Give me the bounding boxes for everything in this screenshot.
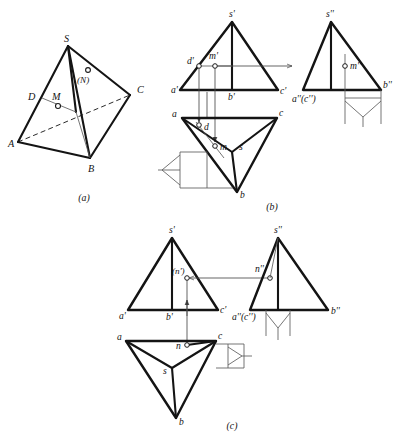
panel-b-top-view: a c d m s b [172, 107, 284, 200]
panel-c-projections: s' (n') a' b' c' a c n s b [117, 224, 341, 432]
c-top-edge-s-b [172, 368, 176, 418]
label-A: A [7, 138, 15, 149]
label-s-b: s [239, 141, 243, 152]
caption-panel-c: (c) [227, 420, 238, 432]
label-n-c: n [176, 340, 181, 351]
label-M: M [51, 91, 61, 102]
label-a-c: a [117, 331, 122, 342]
figure-root: S A B C D M (N) (a) s' d' m' [0, 0, 406, 440]
point-m-marker [213, 144, 218, 149]
point-M-marker [56, 104, 61, 109]
caption-panel-a: (a) [78, 192, 89, 204]
label-s-c: s [163, 365, 167, 376]
front-triangle-outline [180, 22, 278, 90]
side-triangle-outline [303, 22, 381, 90]
c-aux-chevron [228, 347, 242, 365]
edge-SB [68, 46, 90, 158]
label-s-prime-c: s' [169, 224, 176, 235]
c-top-edge-a-s [126, 341, 172, 368]
side-aux-chevron [345, 101, 381, 117]
point-d-marker [197, 123, 202, 128]
label-b-double-prime-c: b'' [331, 305, 341, 316]
panel-a-pictorial: S A B C D M (N) (a) [7, 33, 144, 204]
descriptive-geometry-figure: S A B C D M (N) (a) s' d' m' [0, 0, 406, 440]
edge-SC [68, 46, 130, 95]
label-N: (N) [77, 75, 89, 85]
label-m-b: m [220, 141, 227, 152]
label-b-b: b [240, 189, 245, 200]
panel-c-top-view: a c n s b [117, 330, 252, 427]
edge-BC [90, 95, 130, 158]
label-S: S [64, 33, 69, 44]
point-m-double-prime-marker [343, 64, 348, 69]
label-a-prime-c: a' [119, 310, 127, 321]
label-c-prime-b: c' [280, 85, 287, 96]
label-n-prime-c: (n') [172, 266, 185, 276]
panel-b-projections: s' d' m' a' b' c' a c d m s b [158, 8, 393, 213]
label-n-double-prime-c: n'' [255, 263, 265, 274]
label-d-prime-b: d' [187, 55, 195, 66]
label-s-prime-b: s' [229, 8, 236, 19]
c-side-triangle-outline [250, 238, 328, 310]
point-n-prime-marker [185, 276, 190, 281]
point-N-marker [86, 68, 91, 73]
label-s-double-prime-c: s'' [274, 224, 283, 235]
label-ac-double-prime-c: a''(c'') [232, 311, 256, 323]
point-n-marker [185, 343, 190, 348]
label-c-prime-c: c' [220, 304, 227, 315]
panel-c-side-view: s'' n'' a''(c'') b'' [232, 224, 341, 340]
label-B: B [88, 163, 94, 174]
panel-b-side-view: s'' m'' a''(c'') b'' [292, 8, 393, 127]
label-C: C [137, 84, 144, 95]
point-m-prime-marker [213, 64, 218, 69]
panel-c-front-view: s' (n') a' b' c' [119, 224, 270, 344]
caption-panel-b: (b) [266, 201, 277, 213]
edge-SA [18, 46, 68, 142]
label-m-double-prime-b: m'' [350, 60, 362, 71]
label-a-prime-b: a' [171, 84, 179, 95]
label-m-prime-b: m' [209, 50, 219, 61]
label-a-b: a [172, 108, 177, 119]
c-top-triangle-outline [126, 341, 216, 418]
label-d-b: d [204, 121, 209, 132]
label-s-double-prime-b: s'' [326, 8, 335, 19]
label-ac-double-prime-b: a''(c'') [292, 93, 316, 105]
label-D: D [27, 91, 36, 102]
label-b-prime-b: b' [228, 91, 236, 102]
point-d-prime-marker [197, 64, 202, 69]
label-c-b: c [279, 107, 284, 118]
label-c-c: c [218, 330, 223, 341]
label-b-double-prime-b: b'' [383, 79, 393, 90]
c-side-aux-chevron [266, 313, 290, 328]
edge-AB [18, 142, 90, 158]
label-b-c: b [179, 416, 184, 427]
label-b-prime-c: b' [166, 311, 174, 322]
